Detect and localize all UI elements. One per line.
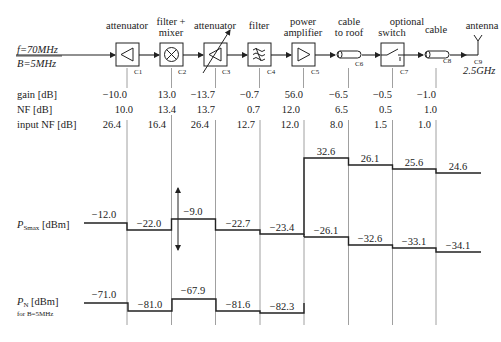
cable-icon <box>337 51 361 58</box>
psmax-label: PSmax [dBm] <box>16 219 69 232</box>
svg-text:13.0: 13.0 <box>158 89 176 100</box>
output-frequency: 2.5GHz <box>463 65 495 76</box>
stage-c1-attenuator: attenuator C1 <box>106 20 148 76</box>
stage-label: cable <box>425 24 447 35</box>
stage-c4-filter: filter C4 <box>248 20 276 76</box>
pn-trace: −71.0 −81.0 −67.9 −81.6 −82.3 <box>84 285 304 313</box>
svg-text:1.0: 1.0 <box>424 104 437 115</box>
pn-bandwidth-note: for B=5MHz <box>17 310 53 318</box>
svg-text:56.0: 56.0 <box>285 89 303 100</box>
stage-id: C6 <box>355 60 364 68</box>
stage-id: C2 <box>178 68 187 76</box>
svg-text:10.0: 10.0 <box>115 104 133 115</box>
stage-id: C1 <box>134 68 143 76</box>
stage-id: C8 <box>443 57 452 65</box>
stage-id: C7 <box>400 68 409 76</box>
svg-text:−81.6: −81.6 <box>226 299 250 310</box>
stage-label: filter <box>249 20 270 31</box>
stage-label: switch <box>378 27 406 38</box>
svg-text:12.0: 12.0 <box>282 104 300 115</box>
input-spec: f=70MHz B=5MHz <box>16 44 62 69</box>
svg-text:−81.0: −81.0 <box>138 299 162 310</box>
stage-label: power <box>290 16 317 27</box>
svg-text:6.5: 6.5 <box>335 104 348 115</box>
svg-text:−12.0: −12.0 <box>92 209 116 220</box>
svg-text:26.1: 26.1 <box>361 153 379 164</box>
row-labels: gain [dB] NF [dB] input NF [dB] PSmax [d… <box>16 89 77 318</box>
svg-text:26.4: 26.4 <box>103 119 122 130</box>
svg-text:−22.7: −22.7 <box>226 218 250 229</box>
nf-row: 10.0 13.4 13.7 0.7 12.0 6.5 0.5 1.0 <box>115 104 437 115</box>
svg-text:−32.6: −32.6 <box>358 233 382 244</box>
svg-text:−10.0: −10.0 <box>103 89 127 100</box>
antenna-icon <box>474 35 482 55</box>
stage-label: antenna <box>466 20 499 31</box>
svg-text:24.6: 24.6 <box>449 161 467 172</box>
svg-text:12.0: 12.0 <box>281 119 299 130</box>
svg-text:−0.7: −0.7 <box>240 89 259 100</box>
gain-row: −10.0 13.0 −13.7 −0.7 56.0 −6.5 −0.5 −1.… <box>103 89 436 100</box>
svg-text:0.5: 0.5 <box>379 104 392 115</box>
svg-text:−1.0: −1.0 <box>417 89 436 100</box>
svg-text:−82.3: −82.3 <box>270 301 294 312</box>
nf-label: NF [dB] <box>17 104 52 115</box>
stage-c2-mixer: filter + mixer C2 <box>157 16 187 76</box>
stage-label: attenuator <box>194 20 236 31</box>
stage-c7-switch: optional switch C7 <box>378 16 424 76</box>
svg-text:16.4: 16.4 <box>148 119 167 130</box>
stage-label: optional <box>390 16 424 27</box>
level-diagram: f=70MHz B=5MHz attenuator C1 filter + mi… <box>0 0 501 342</box>
stage-c3-variable-attenuator: attenuator C3 <box>194 20 236 76</box>
svg-text:−0.5: −0.5 <box>373 89 392 100</box>
svg-text:1.0: 1.0 <box>418 119 431 130</box>
svg-text:26.4: 26.4 <box>191 119 210 130</box>
svg-text:1.5: 1.5 <box>374 119 387 130</box>
svg-text:13.7: 13.7 <box>197 104 215 115</box>
stage-label: attenuator <box>106 20 148 31</box>
svg-text:−22.0: −22.0 <box>137 218 161 229</box>
svg-text:−26.1: −26.1 <box>314 225 338 236</box>
stage-label: to roof <box>335 27 364 38</box>
svg-text:−23.4: −23.4 <box>270 222 295 233</box>
svg-text:−33.1: −33.1 <box>402 236 426 247</box>
stage-label: amplifier <box>284 27 323 38</box>
psmax-trace: −12.0 −22.0 −9.0 −22.7 −23.4 32.6 26.1 2… <box>84 146 481 252</box>
svg-text:−9.0: −9.0 <box>183 206 202 217</box>
gain-label: gain [dB] <box>17 89 57 100</box>
stage-label: mixer <box>159 27 184 38</box>
stage-label: filter + <box>157 16 186 27</box>
stage-c9-antenna: antenna C9 2.5GHz <box>463 20 499 76</box>
svg-text:13.4: 13.4 <box>158 104 177 115</box>
input-nf-row: 26.4 16.4 26.4 12.7 12.0 8.0 1.5 1.0 <box>103 119 431 130</box>
stage-c6-cable: cable to roof C6 <box>335 16 364 68</box>
stage-id: C4 <box>267 68 276 76</box>
svg-text:−67.9: −67.9 <box>181 285 205 296</box>
stage-id: C3 <box>222 68 231 76</box>
stage-id: C5 <box>311 68 320 76</box>
svg-text:25.6: 25.6 <box>405 157 423 168</box>
stage-label: cable <box>338 16 360 27</box>
stage-c5-power-amplifier: power amplifier C5 <box>284 16 323 76</box>
svg-text:0.7: 0.7 <box>247 104 260 115</box>
svg-text:−34.1: −34.1 <box>446 240 470 251</box>
input-bandwidth: B=5MHz <box>17 58 56 69</box>
pn-label: PN [dBm] <box>16 296 59 309</box>
svg-text:−6.5: −6.5 <box>329 89 348 100</box>
svg-text:−71.0: −71.0 <box>92 289 116 300</box>
svg-text:8.0: 8.0 <box>330 119 343 130</box>
svg-text:32.6: 32.6 <box>317 146 335 157</box>
svg-text:−13.7: −13.7 <box>191 89 215 100</box>
input-nf-label: input NF [dB] <box>17 119 77 130</box>
stage-c8-cable: cable C8 <box>425 24 452 65</box>
svg-text:12.7: 12.7 <box>237 119 255 130</box>
input-frequency: f=70MHz <box>17 44 58 55</box>
